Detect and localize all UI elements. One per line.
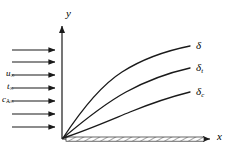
delta-c-subscript: c (201, 91, 204, 98)
thermal-boundary-layer-label: δt (196, 62, 203, 75)
boundary-layer-figure: y x u∞ t∞ cA∞ δ δt δc (0, 0, 235, 163)
curve-thermal-boundary-layer (63, 68, 190, 138)
y-axis-label: y (66, 8, 71, 19)
concentration-boundary-layer-label: δc (196, 86, 204, 99)
freestream-velocity-subscript: ∞ (11, 72, 15, 78)
delta-symbol: δ (196, 39, 201, 51)
delta-t-subscript: t (201, 67, 203, 74)
freestream-temperature-label: t∞ (7, 82, 14, 92)
flat-plate (66, 137, 204, 141)
freestream-concentration-subscript: A∞ (6, 98, 14, 104)
curve-concentration-boundary-layer (63, 92, 190, 138)
figure-canvas (0, 0, 235, 163)
freestream-velocity-label: u∞ (6, 69, 14, 79)
freestream-arrows (12, 50, 55, 127)
freestream-concentration-label: cA∞ (2, 95, 14, 105)
velocity-boundary-layer-label: δ (196, 40, 201, 53)
boundary-layer-curves (63, 46, 190, 138)
freestream-temperature-subscript: ∞ (10, 85, 14, 91)
x-axis-label: x (217, 131, 222, 142)
